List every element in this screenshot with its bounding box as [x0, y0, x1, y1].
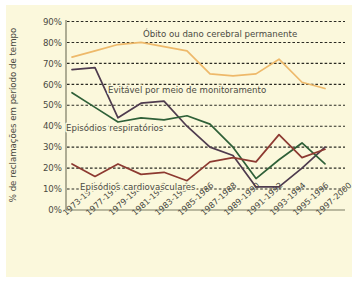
y-tick-label: 80%	[43, 38, 62, 48]
y-axis-tick-labels: 0%10%20%30%40%50%60%70%80%90%	[43, 17, 62, 216]
line-chart: 0%10%20%30%40%50%60%70%80%90% 1973-19761…	[0, 0, 358, 282]
series-annotation: Episódios respiratórios	[66, 123, 164, 133]
y-tick-label: 10%	[43, 184, 62, 194]
series-lines-group	[72, 42, 325, 187]
y-tick-label: 60%	[43, 80, 62, 90]
y-tick-label: 30%	[43, 142, 62, 152]
y-tick-label: 70%	[43, 59, 62, 69]
chart-figure: 0%10%20%30%40%50%60%70%80%90% 1973-19761…	[0, 0, 358, 282]
series-annotation: Óbito ou dano cerebral permanente	[143, 28, 297, 39]
y-tick-label: 20%	[43, 163, 62, 173]
series-line	[72, 135, 325, 181]
y-axis-title: % de reclamações em período de tempo	[8, 28, 18, 202]
series-line	[72, 42, 325, 88]
y-tick-label: 90%	[43, 17, 62, 27]
y-tick-label: 50%	[43, 100, 62, 110]
series-annotation: Episódios cardiovasculares	[80, 182, 196, 192]
y-tick-label: 40%	[43, 121, 62, 131]
series-annotation: Evitável por meio de monitoramento	[108, 85, 266, 95]
